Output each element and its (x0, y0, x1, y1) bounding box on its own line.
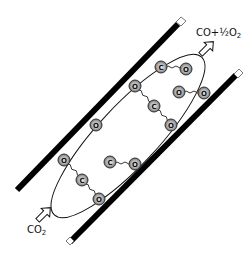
channel-walls (17, 17, 243, 245)
atom-c3: C (76, 174, 88, 186)
reactant-label-main: CO (27, 224, 42, 235)
svg-text:O: O (93, 122, 99, 130)
atom-o4: O (173, 86, 185, 98)
svg-text:O: O (96, 196, 102, 204)
svg-text:O: O (168, 122, 174, 130)
atom-c4: C (104, 156, 116, 168)
product-label-sub: 2 (237, 32, 241, 40)
reactant-label: CO2 (27, 225, 46, 237)
product-label: CO+½O2 (196, 28, 241, 40)
atom-o8: O (93, 193, 105, 205)
product-label-main: CO+½O (196, 27, 237, 38)
svg-text:O: O (201, 90, 207, 98)
atom-o5: O (198, 87, 210, 99)
atom-c2: C (148, 100, 160, 112)
svg-text:C: C (107, 159, 112, 167)
svg-text:O: O (132, 161, 138, 169)
atom-o1: O (180, 63, 192, 75)
reaction-ellipse (32, 37, 223, 236)
atoms: C O O C O O O O (58, 61, 210, 205)
svg-text:C: C (151, 103, 156, 111)
atom-o3: O (165, 119, 177, 131)
atom-c1: C (155, 61, 167, 73)
svg-text:O: O (61, 157, 67, 165)
atom-o2: O (129, 80, 141, 92)
reactant-label-sub: 2 (42, 229, 46, 237)
atom-o6: O (90, 119, 102, 131)
svg-text:C: C (158, 64, 163, 72)
atom-o7: O (58, 154, 70, 166)
svg-text:O: O (132, 83, 138, 91)
svg-text:O: O (176, 89, 182, 97)
svg-text:O: O (183, 66, 189, 74)
svg-text:C: C (79, 177, 84, 185)
atom-o9: O (129, 158, 141, 170)
